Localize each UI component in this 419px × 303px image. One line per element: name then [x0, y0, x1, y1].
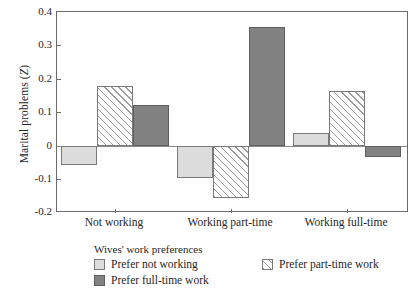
legend-item-prefer-full-time-work: Prefer full-time work [94, 274, 209, 286]
bar-not-working-prefer-full-time [133, 105, 169, 146]
y-tick-label-4: 0 [6, 140, 52, 151]
bar-working-full-time-prefer-part-time [329, 91, 365, 146]
bar-working-part-time-prefer-part-time [213, 146, 249, 198]
x-tick-mark-working-full-time [347, 209, 348, 213]
x-tick-mark-working-part-time [231, 209, 232, 213]
legend-swatch-hatch-icon [262, 259, 273, 270]
bar-not-working-prefer-not-working [61, 146, 97, 165]
y-tick-label-1: 0.3 [6, 39, 52, 50]
y-tick-mark-0.2 [57, 79, 61, 80]
legend-title: Wives' work preferences [94, 243, 394, 255]
x-axis-label-working-part-time: Working part-time [170, 216, 290, 228]
bar-working-part-time-prefer-full-time [249, 27, 285, 146]
legend-label-prefer-not-working: Prefer not working [111, 258, 198, 270]
y-tick-label-0: 0.4 [6, 6, 52, 17]
bar-working-full-time-prefer-not-working [293, 133, 329, 146]
y-tick-mark-0.1 [57, 112, 61, 113]
bar-working-part-time-prefer-not-working [177, 146, 213, 178]
legend-swatch-dark-icon [94, 275, 105, 286]
bar-working-full-time-prefer-full-time [365, 146, 401, 157]
x-axis-label-not-working: Not working [54, 216, 174, 228]
legend-item-prefer-part-time-work: Prefer part-time work [262, 258, 379, 270]
legend-item-prefer-not-working: Prefer not working [94, 258, 198, 270]
y-tick-label-2: 0.2 [6, 73, 52, 84]
y-tick-label-6: -0.2 [6, 206, 52, 217]
legend-label-prefer-full-time-work: Prefer full-time work [111, 274, 209, 286]
legend-swatch-light-icon [94, 259, 105, 270]
legend-row-2: Prefer full-time work [94, 274, 394, 289]
legend-row-1: Prefer not working Prefer part-time work [94, 258, 394, 273]
y-tick-mark-neg0.1 [57, 179, 61, 180]
y-tick-label-5: -0.1 [6, 173, 52, 184]
chart-legend: Wives' work preferences Prefer not worki… [94, 243, 394, 290]
chart-figure: Marital problems (Z) 0.4 0.3 0.2 0.1 0 -… [0, 0, 419, 303]
plot-area [56, 11, 408, 212]
legend-label-prefer-part-time-work: Prefer part-time work [279, 258, 379, 270]
bar-not-working-prefer-part-time [97, 86, 133, 146]
y-tick-label-3: 0.1 [6, 106, 52, 117]
x-tick-mark-not-working [115, 209, 116, 213]
y-tick-mark-0.3 [57, 45, 61, 46]
y-axis-title-text: Marital problems [18, 82, 30, 163]
x-axis-label-working-full-time: Working full-time [286, 216, 406, 228]
